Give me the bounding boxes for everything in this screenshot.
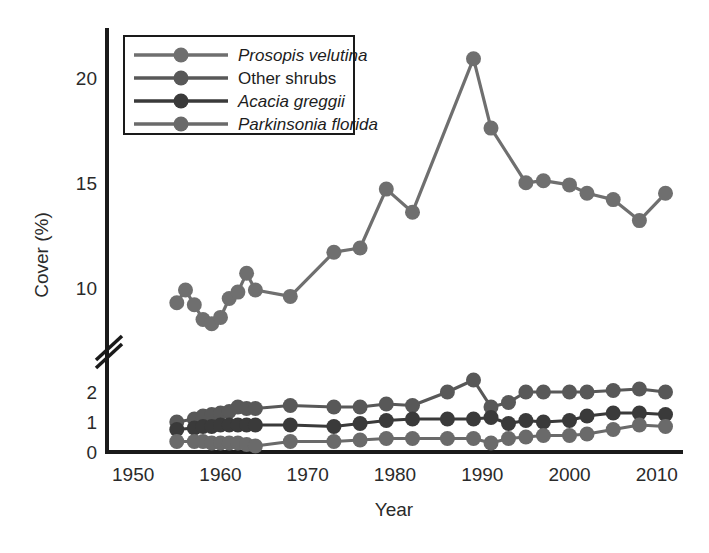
legend-marker-0 bbox=[174, 48, 189, 63]
data-point bbox=[501, 431, 516, 446]
y-tick-label-1: 1 bbox=[86, 412, 97, 433]
y-axis-title: Cover (%) bbox=[31, 212, 52, 298]
data-point bbox=[632, 418, 647, 433]
data-point bbox=[484, 410, 499, 425]
data-point bbox=[658, 419, 673, 434]
x-tick-label-2010: 2010 bbox=[636, 464, 678, 485]
data-point bbox=[658, 186, 673, 201]
data-point bbox=[379, 431, 394, 446]
data-point bbox=[466, 51, 481, 66]
data-point bbox=[353, 241, 368, 256]
data-point bbox=[562, 385, 577, 400]
data-point bbox=[536, 415, 551, 430]
data-point bbox=[562, 428, 577, 443]
data-point bbox=[379, 182, 394, 197]
data-point bbox=[169, 434, 184, 449]
data-point bbox=[326, 434, 341, 449]
data-point bbox=[405, 205, 420, 220]
data-point bbox=[632, 382, 647, 397]
chart-figure: 101520012 1950196019701980199020002010 C… bbox=[0, 0, 709, 553]
data-point bbox=[326, 419, 341, 434]
data-point bbox=[248, 439, 263, 454]
y-tick-label-15: 15 bbox=[76, 173, 97, 194]
legend-label-2: Acacia greggii bbox=[237, 92, 346, 111]
data-point bbox=[248, 418, 263, 433]
data-point bbox=[326, 400, 341, 415]
data-point bbox=[466, 431, 481, 446]
data-point bbox=[536, 173, 551, 188]
data-point bbox=[606, 192, 621, 207]
data-point bbox=[178, 283, 193, 298]
data-point bbox=[187, 297, 202, 312]
data-point bbox=[580, 385, 595, 400]
data-point bbox=[230, 285, 245, 300]
data-point bbox=[484, 436, 499, 451]
data-point bbox=[580, 427, 595, 442]
data-point bbox=[440, 412, 455, 427]
legend-marker-2 bbox=[174, 94, 189, 109]
cover-vs-year-line-chart: 101520012 1950196019701980199020002010 C… bbox=[0, 0, 709, 553]
data-point bbox=[353, 433, 368, 448]
data-point bbox=[580, 186, 595, 201]
data-point bbox=[536, 385, 551, 400]
data-point bbox=[606, 422, 621, 437]
data-point bbox=[326, 245, 341, 260]
data-point bbox=[283, 434, 298, 449]
data-point bbox=[518, 430, 533, 445]
x-tick-label-1990: 1990 bbox=[461, 464, 503, 485]
data-point bbox=[440, 431, 455, 446]
data-point bbox=[606, 406, 621, 421]
legend-marker-3 bbox=[174, 117, 189, 132]
legend-marker-1 bbox=[174, 71, 189, 86]
data-point bbox=[484, 121, 499, 136]
x-tick-label-1970: 1970 bbox=[287, 464, 329, 485]
data-point bbox=[466, 373, 481, 388]
data-point bbox=[353, 416, 368, 431]
data-point bbox=[466, 412, 481, 427]
data-point bbox=[248, 401, 263, 416]
data-point bbox=[562, 413, 577, 428]
data-point bbox=[239, 266, 254, 281]
x-tick-group: 1950196019701980199020002010 bbox=[112, 464, 678, 485]
data-point bbox=[248, 283, 263, 298]
data-point bbox=[658, 385, 673, 400]
y-tick-label-10: 10 bbox=[76, 278, 97, 299]
x-tick-label-1980: 1980 bbox=[374, 464, 416, 485]
data-point bbox=[440, 385, 455, 400]
y-tick-group: 101520012 bbox=[76, 68, 97, 463]
data-point bbox=[606, 383, 621, 398]
data-point bbox=[405, 431, 420, 446]
x-tick-label-2000: 2000 bbox=[548, 464, 590, 485]
data-point bbox=[283, 289, 298, 304]
data-point bbox=[379, 413, 394, 428]
y-tick-label-20: 20 bbox=[76, 68, 97, 89]
legend-label-3: Parkinsonia florida bbox=[238, 115, 378, 134]
chart-legend: Prosopis velutinaOther shrubsAcacia greg… bbox=[124, 36, 378, 134]
data-point bbox=[501, 395, 516, 410]
data-point bbox=[632, 213, 647, 228]
data-point bbox=[169, 295, 184, 310]
x-tick-label-1950: 1950 bbox=[112, 464, 154, 485]
data-point bbox=[405, 412, 420, 427]
data-point bbox=[379, 397, 394, 412]
data-point bbox=[580, 409, 595, 424]
data-point bbox=[518, 175, 533, 190]
legend-label-1: Other shrubs bbox=[238, 69, 336, 88]
data-point bbox=[283, 418, 298, 433]
data-point bbox=[518, 385, 533, 400]
data-point bbox=[536, 428, 551, 443]
data-point bbox=[353, 400, 368, 415]
y-tick-label-0: 0 bbox=[86, 442, 97, 463]
y-tick-label-2: 2 bbox=[86, 382, 97, 403]
data-point bbox=[405, 398, 420, 413]
x-tick-label-1960: 1960 bbox=[199, 464, 241, 485]
data-point bbox=[518, 413, 533, 428]
data-point bbox=[213, 310, 228, 325]
data-point bbox=[501, 416, 516, 431]
data-point bbox=[562, 177, 577, 192]
legend-label-0: Prosopis velutina bbox=[238, 46, 367, 65]
data-point bbox=[283, 398, 298, 413]
x-axis-title: Year bbox=[375, 499, 414, 520]
